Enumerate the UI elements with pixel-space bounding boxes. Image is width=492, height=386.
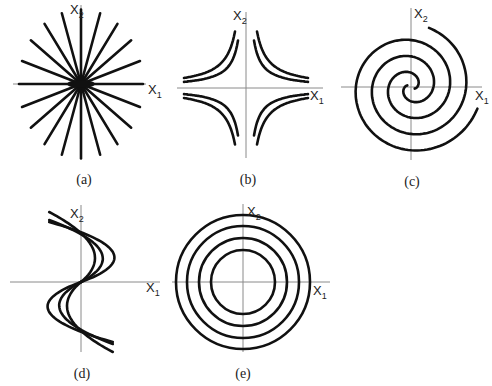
trajectory-ray [81,84,117,144]
panel-b-saddle: X1 X2 (b) [177,8,324,188]
panel-c-axes [341,8,482,160]
node-hub [67,80,95,88]
panel-e-x2-label: X2 [247,204,261,222]
trajectory-curve [49,222,114,282]
panel-a-trajectories [19,10,143,159]
panel-a-star-node: X1 X2 (a) [13,2,162,188]
panel-e-x1-label: X1 [313,283,327,301]
trajectory-hyperbola [184,32,235,78]
panel-b-axes [177,12,323,158]
panel-b-x2-label: X2 [233,8,247,26]
panel-a-x1-label: X1 [148,82,162,100]
panel-c-x2-label: X2 [414,6,428,24]
trajectory-hyperbola [257,98,308,144]
trajectory-ray [81,61,140,84]
phase-portrait-figure: X1 X2 (a) X1 X2 (b) X1 X2 (c) X1 X2 (d) … [0,0,492,386]
panel-c-x1-label: X1 [475,88,489,106]
trajectory-ray [31,84,81,128]
trajectory-ray [62,84,81,155]
panel-a-caption: (a) [76,172,92,188]
panel-a-x2-label: X2 [70,2,84,20]
trajectory-ray [22,61,81,84]
panel-c-caption: (c) [404,174,420,190]
trajectory-ray [81,24,117,84]
trajectory-ray [81,84,100,155]
panel-e-caption: (e) [235,366,251,382]
panel-b-caption: (b) [240,172,257,188]
trajectory-curve [48,282,113,342]
panel-d-x1-label: X1 [146,280,160,298]
panel-e-center: X1 X2 (e) [172,204,330,382]
panel-d-caption: (d) [74,366,91,382]
panel-d-degenerate-node: X1 X2 (d) [10,205,160,382]
trajectory-hyperbola [184,98,235,144]
trajectory-ray [81,40,131,84]
trajectory-ray [81,84,140,107]
trajectory-ray [45,84,81,144]
trajectory-hyperbola [257,32,308,78]
panel-b-x1-label: X1 [310,88,324,106]
trajectory-ray [22,84,81,107]
panel-d-x2-label: X2 [70,206,84,224]
trajectory-ray [81,13,100,84]
trajectory-ray [45,24,81,84]
trajectory-ray [31,40,81,84]
trajectory-ray [81,84,131,128]
panel-c-trajectories [356,28,478,151]
panel-c-spiral: X1 X2 (c) [341,6,489,190]
trajectory-ray [62,13,81,84]
